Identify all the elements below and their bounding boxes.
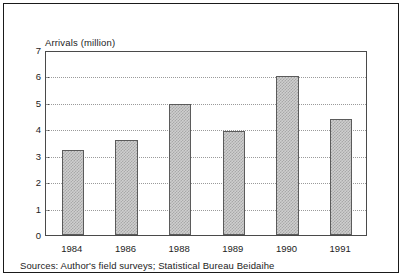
bar-slot: [261, 51, 315, 235]
y-axis-tick-labels: 01234567: [17, 51, 41, 236]
x-tick-label: 1984: [45, 243, 99, 254]
x-tick-label: 1991: [313, 243, 367, 254]
x-tick-label: 1989: [206, 243, 260, 254]
x-axis-tick-labels: 198419861988198919901991: [45, 240, 367, 254]
y-tick-label: 1: [21, 204, 41, 215]
bar-slot: [46, 51, 100, 235]
y-axis-title: Arrivals (million): [45, 37, 115, 48]
bar-slot: [100, 51, 154, 235]
y-tick-label: 2: [21, 177, 41, 188]
x-tick-label: 1990: [260, 243, 314, 254]
bar: [62, 150, 85, 235]
bar-slot: [314, 51, 368, 235]
bar: [115, 140, 138, 235]
y-tick-label: 4: [21, 124, 41, 135]
plot-area: [45, 51, 367, 236]
bar: [223, 131, 246, 235]
bar: [276, 76, 299, 235]
bar: [330, 119, 353, 235]
y-tick-label: 3: [21, 151, 41, 162]
y-tick-label: 6: [21, 71, 41, 82]
bar: [169, 104, 192, 235]
source-caption: Sources: Author's field surveys; Statist…: [20, 260, 274, 271]
y-tick-label: 0: [21, 230, 41, 241]
y-tick-label: 5: [21, 98, 41, 109]
figure-frame: Arrivals (million) 01234567 198419861988…: [3, 3, 399, 273]
bar-slot: [207, 51, 261, 235]
y-tick-label: 7: [21, 45, 41, 56]
x-tick-label: 1988: [152, 243, 206, 254]
x-tick-label: 1986: [99, 243, 153, 254]
bar-slot: [153, 51, 207, 235]
